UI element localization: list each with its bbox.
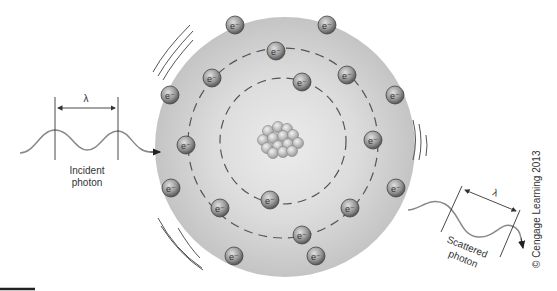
scattered-wave (408, 202, 521, 238)
electron: e⁻ (211, 199, 229, 217)
electron-label: e⁻ (311, 252, 321, 262)
electron-label: e⁻ (230, 21, 240, 31)
electron: e⁻ (364, 131, 382, 149)
copyright-text: © Cengage Learning 2013 (531, 150, 542, 268)
electron-label: e⁻ (166, 184, 176, 194)
electron-label: e⁻ (215, 204, 225, 214)
electron-label: e⁻ (390, 91, 400, 101)
electron: e⁻ (203, 69, 221, 87)
electron-label: e⁻ (297, 78, 307, 88)
electron-label: e⁻ (207, 74, 217, 84)
electron-label: e⁻ (271, 47, 281, 57)
electron: e⁻ (338, 66, 356, 84)
electron-label: e⁻ (297, 231, 307, 241)
electron-label: e⁻ (265, 196, 275, 206)
scattered-arrow (521, 238, 523, 248)
incident-lambda: λ (84, 93, 89, 104)
electron: e⁻ (293, 226, 311, 244)
electron: e⁻ (161, 86, 179, 104)
scattered-tick-right (500, 210, 520, 257)
scattered-lambda: λ (491, 187, 500, 199)
electron: e⁻ (225, 247, 243, 265)
electron-label: e⁻ (165, 91, 175, 101)
electron: e⁻ (386, 86, 404, 104)
electron: e⁻ (341, 199, 359, 217)
incident-label-1: Incident (69, 165, 104, 176)
electron: e⁻ (162, 179, 180, 197)
electron: e⁻ (261, 191, 279, 209)
electron: e⁻ (293, 73, 311, 91)
electron: e⁻ (387, 179, 405, 197)
scattered-photon: λ Scattered photon (408, 186, 523, 270)
electron-label: e⁻ (322, 21, 332, 31)
electron-label: e⁻ (345, 204, 355, 214)
electron: e⁻ (177, 136, 195, 154)
electron-label: e⁻ (229, 252, 239, 262)
electron: e⁻ (318, 16, 336, 34)
electron-label: e⁻ (368, 136, 378, 146)
electron-label: e⁻ (181, 141, 191, 151)
electron: e⁻ (307, 247, 325, 265)
compton-diagram: e⁻e⁻e⁻e⁻e⁻e⁻e⁻e⁻e⁻e⁻e⁻e⁻e⁻e⁻e⁻e⁻e⁻e⁻ λ I… (0, 0, 557, 291)
electron: e⁻ (226, 16, 244, 34)
electron-label: e⁻ (391, 184, 401, 194)
electron-label: e⁻ (342, 71, 352, 81)
scattered-lambda-dimension (465, 190, 516, 211)
electron: e⁻ (267, 42, 285, 60)
incident-photon: λ Incident photon (20, 93, 160, 188)
vibration-arcs-right (413, 120, 427, 160)
incident-label-2: photon (72, 177, 103, 188)
scattered-tick-left (441, 186, 462, 232)
incident-wave (20, 130, 150, 153)
